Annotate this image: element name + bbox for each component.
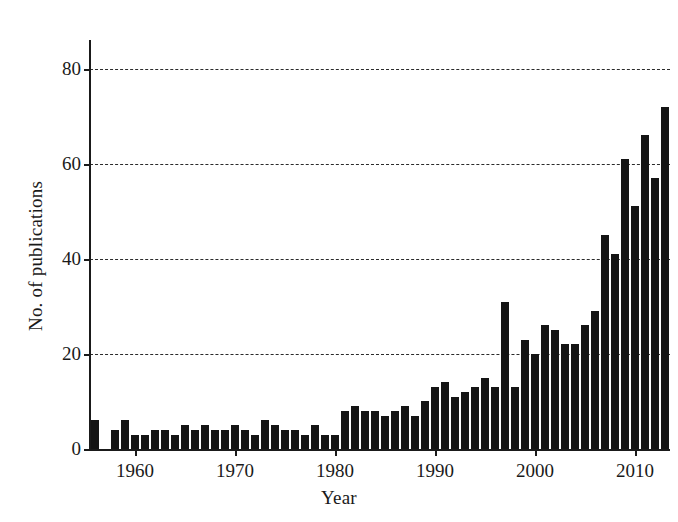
bar-2003: [561, 344, 568, 449]
bar-1998: [511, 387, 518, 449]
bar-2002: [551, 330, 558, 449]
y-tick-label-80: 80: [62, 58, 81, 80]
gridline-80: [90, 69, 670, 70]
bar-1975: [281, 430, 288, 449]
bar-1970: [231, 425, 238, 449]
x-tick-mark-1970: [235, 449, 237, 456]
y-tick-mark-0: [84, 449, 91, 451]
bar-2013: [661, 107, 668, 449]
y-tick-mark-60: [84, 164, 91, 166]
bar-1978: [311, 425, 318, 449]
x-tick-label-1990: 1990: [416, 460, 454, 482]
bar-1979: [321, 435, 328, 449]
x-axis-title: Year: [0, 487, 678, 509]
bar-1982: [351, 406, 358, 449]
bar-2006: [591, 311, 598, 449]
x-tick-mark-2010: [635, 449, 637, 456]
bar-1966: [191, 430, 198, 449]
bar-2011: [641, 135, 648, 449]
y-tick-label-60: 60: [62, 153, 81, 175]
y-tick-label-40: 40: [62, 248, 81, 270]
gridline-40: [90, 259, 670, 260]
bar-2009: [621, 159, 628, 449]
y-tick-mark-80: [84, 69, 91, 71]
bar-1959: [121, 420, 128, 449]
bar-1973: [261, 420, 268, 449]
bar-1993: [461, 392, 468, 449]
bar-1963: [161, 430, 168, 449]
bar-2001: [541, 325, 548, 449]
bar-1986: [391, 411, 398, 449]
x-tick-label-1980: 1980: [316, 460, 354, 482]
bar-1995: [481, 378, 488, 449]
bar-1971: [241, 430, 248, 449]
bar-1989: [421, 401, 428, 449]
bar-1997: [501, 302, 508, 449]
x-tick-label-1970: 1970: [216, 460, 254, 482]
bar-1974: [271, 425, 278, 449]
x-tick-label-1960: 1960: [116, 460, 154, 482]
y-tick-label-0: 0: [72, 438, 82, 460]
bar-2008: [611, 254, 618, 449]
bar-1964: [171, 435, 178, 449]
bar-1996: [491, 387, 498, 449]
bar-2010: [631, 206, 638, 449]
gridline-60: [90, 164, 670, 165]
bar-1984: [371, 411, 378, 449]
y-tick-mark-40: [84, 259, 91, 261]
bar-1962: [151, 430, 158, 449]
bar-1980: [331, 435, 338, 449]
bar-1960: [131, 435, 138, 449]
y-axis-line: [89, 40, 91, 451]
x-tick-mark-1990: [435, 449, 437, 456]
bar-1999: [521, 340, 528, 449]
bar-1991: [441, 382, 448, 449]
bar-1990: [431, 387, 438, 449]
x-tick-mark-1980: [335, 449, 337, 456]
x-tick-mark-2000: [535, 449, 537, 456]
bar-1981: [341, 411, 348, 449]
x-tick-label-2000: 2000: [516, 460, 554, 482]
bar-1983: [361, 411, 368, 449]
bar-1958: [111, 430, 118, 449]
publications-bar-chart: No. of publications Year 020406080 19601…: [0, 0, 678, 522]
y-tick-mark-20: [84, 354, 91, 356]
bar-1969: [221, 430, 228, 449]
bar-1956: [91, 420, 98, 449]
bar-2005: [581, 325, 588, 449]
bar-1961: [141, 435, 148, 449]
bar-1977: [301, 435, 308, 449]
x-tick-mark-1960: [135, 449, 137, 456]
x-axis-line: [89, 449, 670, 451]
bar-2012: [651, 178, 658, 449]
bar-1992: [451, 397, 458, 449]
y-axis-title: No. of publications: [25, 126, 47, 386]
plot-area: 020406080 196019701980199020002010: [90, 40, 670, 450]
bar-2007: [601, 235, 608, 449]
bar-2000: [531, 354, 538, 449]
bar-1967: [201, 425, 208, 449]
x-tick-label-2010: 2010: [616, 460, 654, 482]
bar-1976: [291, 430, 298, 449]
bar-1965: [181, 425, 188, 449]
bar-1994: [471, 387, 478, 449]
bar-2004: [571, 344, 578, 449]
bar-1968: [211, 430, 218, 449]
bar-1987: [401, 406, 408, 449]
y-tick-label-20: 20: [62, 343, 81, 365]
bar-1972: [251, 435, 258, 449]
bar-1985: [381, 416, 388, 449]
bar-1988: [411, 416, 418, 449]
